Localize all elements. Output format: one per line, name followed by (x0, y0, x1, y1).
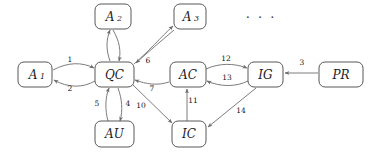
edge-label-12: 12 (221, 54, 231, 63)
edge-label-2: 2 (68, 84, 73, 93)
node-ic-label: IC (181, 127, 196, 141)
node-a2-label: A (105, 10, 115, 24)
edge-label-10: 10 (136, 101, 146, 110)
node-a1-label: A (28, 68, 38, 82)
node-a1[interactable]: A 1 (18, 62, 52, 87)
edge-label-7: 7 (150, 84, 155, 93)
node-qc[interactable]: QC (95, 62, 134, 87)
edge-label-3: 3 (300, 58, 305, 67)
node-ic[interactable]: IC (172, 121, 206, 147)
node-au[interactable]: AU (95, 121, 134, 147)
edge-14-path (208, 88, 256, 127)
diagram-canvas: 1 2 3 4 5 6 7 10 11 12 13 14 A 1 A 2 (0, 0, 376, 153)
edge-label-4: 4 (126, 99, 131, 108)
edge-label-5: 5 (95, 99, 100, 108)
node-a2-subscript: 2 (116, 14, 122, 23)
node-ac[interactable]: AC (170, 62, 206, 87)
edge-label-14: 14 (236, 106, 246, 115)
edge-qc-a3-path (134, 26, 173, 64)
edge-2-path (54, 80, 95, 86)
node-pr[interactable]: PR (319, 62, 363, 87)
node-a3-label: A (182, 10, 192, 24)
edge-4-path (118, 88, 122, 121)
node-ig-label: IG (257, 68, 273, 82)
edge-label-11: 11 (188, 96, 198, 105)
edge-label-6: 6 (146, 56, 151, 65)
nodes-layer: A 1 A 2 A 3 QC AU (18, 4, 363, 147)
edge-5-path (106, 88, 109, 121)
edge-6-path (136, 30, 174, 63)
edge-label-13: 13 (222, 73, 232, 82)
node-pr-label: PR (331, 68, 349, 82)
state-transition-diagram: 1 2 3 4 5 6 7 10 11 12 13 14 A 1 A 2 (0, 0, 376, 153)
node-a1-subscript: 1 (40, 72, 45, 81)
node-ig[interactable]: IG (248, 62, 283, 87)
edge-label-1: 1 (68, 55, 73, 64)
ellipsis-indicator: · · · (246, 10, 277, 25)
node-a3[interactable]: A 3 (174, 4, 206, 29)
edge-a2-qc-path (107, 30, 110, 61)
node-ac-label: AC (178, 68, 197, 82)
node-a2[interactable]: A 2 (95, 4, 131, 29)
edge-12-path (206, 64, 247, 69)
node-au-label: AU (104, 127, 125, 141)
node-qc-label: QC (105, 68, 124, 82)
node-a3-subscript: 3 (194, 14, 199, 23)
edge-qc-a2-path (113, 30, 120, 61)
edge-1-path (53, 64, 94, 70)
